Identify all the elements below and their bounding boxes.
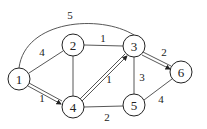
node-1: 1 xyxy=(8,68,30,90)
node-4: 4 xyxy=(62,96,84,118)
edge-1-2 xyxy=(29,51,63,73)
node-6: 6 xyxy=(170,61,192,83)
svg-text:4: 4 xyxy=(70,100,77,115)
edge-4-5 xyxy=(84,106,123,107)
edge-label-5-6: 4 xyxy=(158,93,164,105)
edge-label-3-6: 2 xyxy=(161,46,167,58)
graph-diagram: 5 4 1 1 1 2 3 2 4 1 2 3 4 5 6 xyxy=(0,0,207,129)
edge-2-3 xyxy=(84,45,123,46)
svg-text:2: 2 xyxy=(70,38,77,53)
svg-text:3: 3 xyxy=(131,39,138,54)
svg-text:5: 5 xyxy=(131,98,138,113)
node-2: 2 xyxy=(62,34,84,56)
svg-text:1: 1 xyxy=(16,72,23,87)
edge-label-1-4: 1 xyxy=(39,92,45,104)
node-5: 5 xyxy=(123,94,145,116)
edge-label-4-5: 2 xyxy=(104,111,110,123)
edge-label-1-3: 5 xyxy=(67,9,73,21)
edge-label-4-3: 1 xyxy=(106,73,112,85)
edge-4-3 xyxy=(80,54,127,101)
node-3: 3 xyxy=(123,35,145,57)
edge-label-1-2: 4 xyxy=(39,46,45,58)
edge-label-3-5: 3 xyxy=(139,71,145,83)
edge-label-2-3: 1 xyxy=(100,32,106,44)
edge-1-4 xyxy=(28,83,62,104)
svg-text:6: 6 xyxy=(178,65,185,80)
